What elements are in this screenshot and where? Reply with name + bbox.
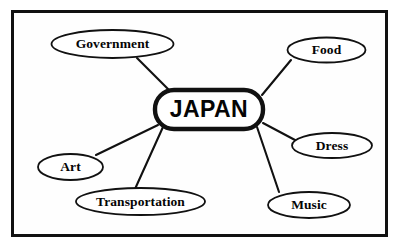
node-shape-center[interactable] [155,90,263,129]
edge-center-dress [263,123,295,140]
concept-map-canvas: Government Food Dress Music Transportati… [0,0,400,246]
node-shape-art[interactable] [38,154,103,180]
edge-center-transportation [135,127,163,189]
node-shape-food[interactable] [288,38,366,63]
node-shape-layer [38,30,372,218]
node-shape-music[interactable] [268,192,350,218]
edge-center-music [257,127,279,192]
edge-center-government [137,58,172,93]
node-shape-government[interactable] [52,30,174,58]
edge-center-food [262,60,291,95]
node-shape-dress[interactable] [292,133,372,158]
node-shape-transportation[interactable] [76,188,205,215]
edge-center-art [96,125,158,155]
diagram-graphics [0,0,400,246]
